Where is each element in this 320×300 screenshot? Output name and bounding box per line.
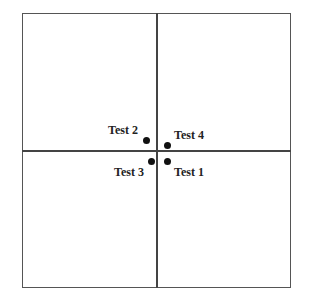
point-test-2 (143, 137, 150, 144)
horizontal-axis-line (22, 150, 291, 152)
point-test-4 (164, 142, 171, 149)
point-test-1 (164, 158, 171, 165)
label-test-1: Test 1 (174, 165, 204, 180)
label-test-2: Test 2 (108, 123, 138, 138)
label-test-4: Test 4 (174, 128, 204, 143)
label-test-3: Test 3 (114, 165, 144, 180)
point-test-3 (148, 158, 155, 165)
